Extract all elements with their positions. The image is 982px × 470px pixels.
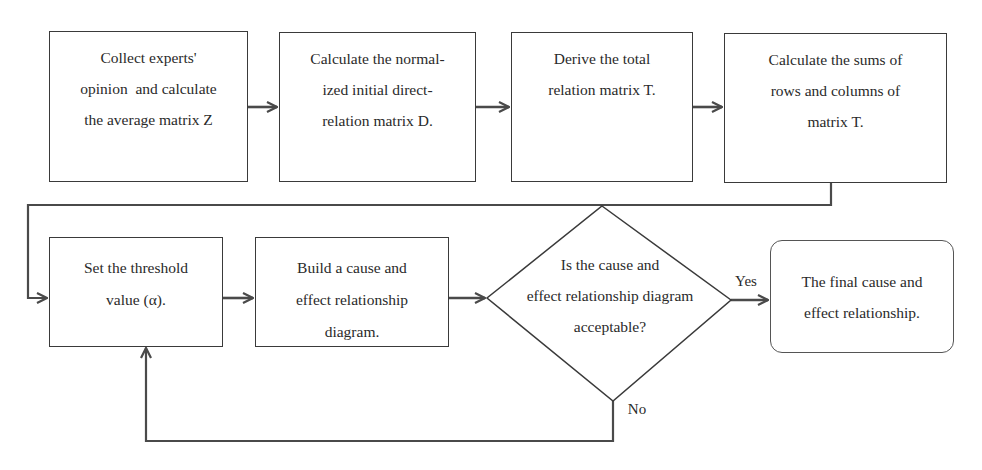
terminal-final-relationship: The final cause and effect relationship. xyxy=(770,240,954,353)
node-text-line: Derive the total xyxy=(548,43,655,74)
node-text-line: diagram. xyxy=(296,316,408,348)
node-text-line: relation matrix D. xyxy=(310,105,444,136)
step-sum-rows-columns: Calculate the sums of rows and columns o… xyxy=(724,33,947,183)
node-text-line: effect relationship. xyxy=(802,297,923,328)
edge-label-no: No xyxy=(622,394,652,425)
node-text-line: opinion and calculate xyxy=(80,73,216,104)
decision-acceptable-check: Is the cause and effect relationship dia… xyxy=(495,249,725,342)
node-text-line: ized initial direct- xyxy=(310,74,444,105)
node-text-line: Is the cause and xyxy=(495,249,725,280)
edge-n7-n5-no xyxy=(146,348,613,441)
node-text-line: the average matrix Z xyxy=(80,104,216,135)
node-text-line: Set the threshold xyxy=(84,252,188,284)
step-build-diagram: Build a cause and effect relationship di… xyxy=(255,237,449,347)
node-text-line: relation matrix T. xyxy=(548,74,655,105)
node-text-line: Calculate the normal- xyxy=(310,43,444,74)
node-text-line: acceptable? xyxy=(495,311,725,342)
step-collect-opinions: Collect experts' opinion and calculate t… xyxy=(49,31,248,182)
step-normalize-matrix: Calculate the normal- ized initial direc… xyxy=(279,32,476,182)
node-text-line: Collect experts' xyxy=(80,42,216,73)
node-text-line: rows and columns of xyxy=(769,75,903,106)
node-text-line: Calculate the sums of xyxy=(769,44,903,75)
step-total-relation-matrix: Derive the total relation matrix T. xyxy=(511,32,693,182)
flowchart-canvas: Collect experts' opinion and calculate t… xyxy=(0,0,982,470)
node-text-line: matrix T. xyxy=(769,106,903,137)
node-text-line: effect relationship diagram xyxy=(495,280,725,311)
step-set-threshold: Set the threshold value (α). xyxy=(49,237,223,347)
edge-label-yes: Yes xyxy=(726,266,766,297)
node-text-line: effect relationship xyxy=(296,284,408,316)
node-text-line: Build a cause and xyxy=(296,252,408,284)
node-text-line: The final cause and xyxy=(802,266,923,297)
node-text-line: value (α). xyxy=(84,284,188,316)
